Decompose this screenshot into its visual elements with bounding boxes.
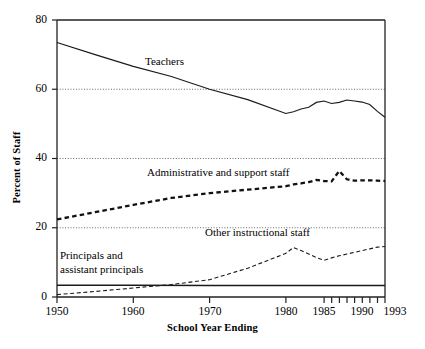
y-tick-label-60: 60: [7, 82, 47, 94]
x-axis-ticks: [57, 297, 385, 303]
series-annotation-teachers: Teachers: [145, 55, 184, 69]
y-axis-title: Percent of Staff: [11, 118, 22, 218]
x-tick-label-1970: 1970: [187, 305, 233, 317]
series-annotation-principals: Principals and assistant principals: [60, 249, 143, 277]
principals-label-line1: Principals and: [60, 249, 143, 263]
y-tick-label-80: 80: [7, 13, 47, 25]
x-axis-title: School Year Ending: [0, 322, 425, 333]
chart-container: 80 60 40 20 0 1950 1960 1970 1980 1985 1…: [0, 0, 425, 349]
y-tick-label-0: 0: [7, 290, 47, 302]
principals-label-line2: assistant principals: [60, 263, 143, 277]
y-axis-ticks: [52, 20, 57, 297]
x-tick-label-1950: 1950: [34, 305, 80, 317]
series-annotation-admin: Administrative and support staff: [147, 166, 289, 180]
x-tick-label-1993: 1993: [372, 305, 418, 317]
series-annotation-other: Other instructional staff: [205, 226, 310, 240]
x-tick-label-1960: 1960: [110, 305, 156, 317]
y-tick-label-20: 20: [7, 220, 47, 232]
